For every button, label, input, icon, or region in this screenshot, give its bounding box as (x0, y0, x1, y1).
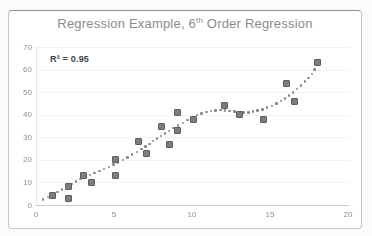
trendline-dot (304, 80, 307, 83)
data-point-marker (291, 98, 298, 105)
trendline-dot (148, 143, 151, 146)
trendline-dot (275, 102, 278, 105)
y-tick-label: 10 (11, 178, 32, 187)
data-point-marker (112, 156, 119, 163)
trendline-dot (42, 198, 45, 201)
data-point-marker (88, 179, 95, 186)
data-point-marker (80, 172, 87, 179)
trendline-dot (313, 68, 316, 71)
trendline-dot (136, 151, 139, 154)
trendline-dot (122, 159, 125, 162)
y-tick-label: 20 (11, 155, 32, 164)
trendline-dot (214, 109, 217, 112)
chart-frame: Regression Example, 6th Order Regression… (8, 10, 362, 229)
data-point-marker (65, 183, 72, 190)
trendline-dot (224, 109, 227, 112)
gridline (37, 182, 349, 183)
y-tick-label: 0 (11, 201, 32, 210)
data-point-marker (49, 192, 56, 199)
trendline-dot (300, 84, 303, 87)
trendline-dot (98, 170, 101, 173)
data-point-marker (143, 150, 150, 157)
plot-area (36, 47, 349, 206)
trendline-dot (292, 91, 295, 94)
trendline-dot (296, 88, 299, 91)
data-point-marker (174, 109, 181, 116)
data-point-marker (314, 59, 321, 66)
chart-title-superscript: th (196, 16, 203, 25)
x-tick-label: 0 (21, 210, 51, 219)
chart-title-text-2: Order Regression (203, 16, 313, 31)
chart-title: Regression Example, 6th Order Regression (9, 16, 361, 31)
chart-image: Regression Example, 6th Order Regression… (0, 0, 372, 236)
trendline-dot (144, 145, 147, 148)
trendline-dot (256, 109, 259, 112)
trendline-dot (156, 137, 159, 140)
data-point-marker (174, 127, 181, 134)
data-point-marker (221, 102, 228, 109)
data-point-marker (112, 172, 119, 179)
gridline (37, 70, 349, 71)
trendline-dot (219, 109, 222, 112)
trendline-dot (89, 174, 92, 177)
trendline-dot (252, 110, 255, 113)
trendline-dot (164, 132, 167, 135)
data-point-marker (236, 111, 243, 118)
x-tick-label: 10 (177, 210, 207, 219)
gridline (37, 137, 349, 138)
trendline-dot (61, 188, 64, 191)
y-tick-label: 60 (11, 65, 32, 74)
chart-title-text: Regression Example, 6 (57, 16, 196, 31)
trendline-dot (75, 180, 78, 183)
trendline-dot (210, 110, 213, 113)
trendline-dot (311, 73, 314, 76)
trendline-dot (228, 110, 231, 113)
trendline-dot (131, 153, 134, 156)
trendline-dot (112, 163, 115, 166)
trendline-dot (284, 97, 287, 100)
trendline-dot (93, 172, 96, 175)
trendline-dot (108, 166, 111, 169)
data-point-marker (135, 138, 142, 145)
trendline-dot (288, 94, 291, 97)
y-tick-label: 50 (11, 88, 32, 97)
x-tick-label: 5 (99, 210, 129, 219)
trendline-dot (182, 122, 185, 125)
gridline (37, 92, 349, 93)
gridline (37, 160, 349, 161)
x-tick-label: 15 (255, 210, 285, 219)
trendline-dot (233, 110, 236, 113)
trendline-dot (280, 100, 283, 103)
trendline-dot (168, 130, 171, 133)
trendline-dot (205, 111, 208, 114)
trendline-dot (56, 191, 59, 194)
y-tick-label: 70 (11, 43, 32, 52)
trendline-dot (126, 156, 129, 159)
trendline-dot (307, 77, 310, 80)
trendline-dot (152, 140, 155, 143)
data-point-marker (158, 123, 165, 130)
trendline-dot (200, 112, 203, 115)
data-point-marker (190, 116, 197, 123)
data-point-marker (65, 195, 72, 202)
trendline-dot (103, 168, 106, 171)
data-point-marker (260, 116, 267, 123)
data-point-marker (166, 141, 173, 148)
y-tick-label: 30 (11, 133, 32, 142)
gridline (37, 47, 349, 48)
x-tick-label: 20 (333, 210, 363, 219)
trendline-dot (266, 106, 269, 109)
trendline-dot (261, 108, 264, 111)
trendline-dot (247, 111, 250, 114)
data-point-marker (283, 80, 290, 87)
trendline-dot (271, 105, 274, 108)
trendline-dot (186, 119, 189, 122)
y-tick-label: 40 (11, 110, 32, 119)
